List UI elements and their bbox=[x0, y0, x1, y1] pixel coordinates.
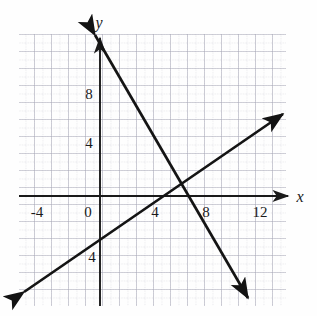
y-tick-label-8: 8 bbox=[85, 86, 93, 102]
y-axis-label: y bbox=[93, 14, 103, 32]
graph-grid bbox=[19, 34, 286, 306]
x-tick-label-8: 8 bbox=[202, 204, 210, 220]
x-tick-label-minus4: -4 bbox=[31, 204, 44, 220]
graph-figure: -4 0 4 8 12 8 4 4 x y bbox=[0, 0, 317, 316]
x-tick-label-0: 0 bbox=[84, 204, 92, 220]
y-tick-label-minus4: 4 bbox=[88, 249, 96, 265]
y-tick-label-4: 4 bbox=[85, 135, 93, 151]
x-tick-label-4: 4 bbox=[151, 204, 159, 220]
x-tick-label-12: 12 bbox=[253, 204, 268, 220]
coordinate-plane-svg: -4 0 4 8 12 8 4 4 x y bbox=[0, 0, 317, 316]
x-axis-label: x bbox=[295, 188, 303, 205]
